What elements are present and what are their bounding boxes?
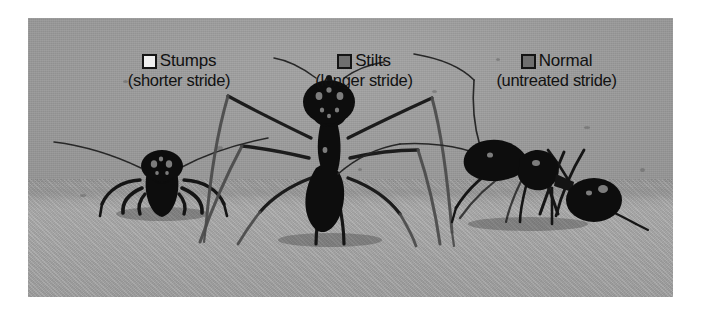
- legend-label-stumps: Stumps: [160, 52, 216, 70]
- legend-item-stilts[interactable]: Stilts (longer stride): [284, 52, 444, 90]
- legend-item-normal[interactable]: Normal (untreated stride): [454, 52, 659, 90]
- figure-root: .body { fill: #0d0d0d; } .body2 { fill: …: [0, 0, 702, 311]
- legend-item-stumps[interactable]: Stumps (shorter stride): [94, 52, 264, 90]
- ant-photograph: .body { fill: #0d0d0d; } .body2 { fill: …: [28, 18, 673, 297]
- legend-label-normal: Normal: [539, 52, 593, 70]
- legend: Stumps (shorter stride) Stilts (longer s…: [56, 36, 673, 108]
- legend-label-stilts: Stilts: [355, 52, 391, 70]
- legend-sublabel-stumps: (shorter stride): [94, 72, 264, 89]
- legend-top-row-normal: Normal: [454, 52, 659, 70]
- legend-sublabel-normal: (untreated stride): [454, 72, 659, 89]
- legend-swatch-stumps: [142, 54, 157, 69]
- ant-stumps-graphic: [54, 138, 268, 221]
- legend-sublabel-stilts: (longer stride): [284, 72, 444, 89]
- legend-swatch-normal: [521, 54, 536, 69]
- legend-top-row-stilts: Stilts: [284, 52, 444, 70]
- legend-top-row-stumps: Stumps: [94, 52, 264, 70]
- legend-swatch-stilts: [337, 54, 352, 69]
